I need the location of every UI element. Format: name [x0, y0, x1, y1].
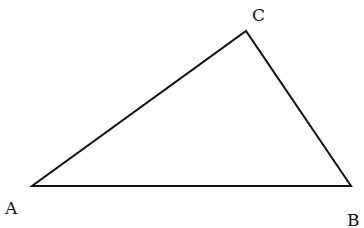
triangle-diagram: C A B [0, 0, 364, 228]
vertex-label-c: C [252, 5, 265, 25]
vertex-label-b: B [347, 210, 360, 228]
triangle-abc [32, 31, 351, 186]
vertex-label-a: A [4, 198, 18, 218]
